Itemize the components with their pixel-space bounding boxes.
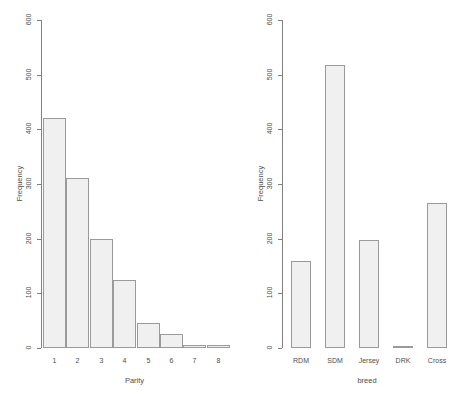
y-axis-line: [282, 20, 283, 348]
y-axis-tick: [278, 239, 282, 240]
x-axis-tick-label: SDM: [318, 357, 352, 364]
y-axis-line: [41, 20, 42, 348]
y-axis-tick-label: 300: [25, 173, 32, 195]
bar: [291, 261, 311, 348]
y-axis-title: Frequency: [256, 154, 265, 214]
x-axis-tick-label: 7: [183, 357, 206, 364]
bar: [66, 178, 89, 348]
x-axis-tick-label: 4: [113, 357, 136, 364]
x-axis-tick-label: Jersey: [352, 357, 386, 364]
y-axis-title: Frequency: [15, 154, 24, 214]
bar: [137, 323, 160, 348]
x-axis-tick-label: DRK: [386, 357, 420, 364]
bar: [359, 240, 379, 348]
y-axis-tick: [278, 348, 282, 349]
figure-canvas: 0100200300400500600Frequency12345678Pari…: [0, 0, 469, 394]
y-axis-tick: [37, 129, 41, 130]
chart-panel-breed: 0100200300400500600FrequencyRDMSDMJersey…: [240, 0, 469, 394]
y-axis-tick: [278, 184, 282, 185]
y-axis-tick-label: 400: [266, 118, 273, 140]
x-axis-tick-label: 3: [90, 357, 113, 364]
x-axis-tick-label: 1: [43, 357, 66, 364]
x-axis-title: Parity: [41, 376, 228, 385]
x-axis-tick-label: 8: [207, 357, 230, 364]
bar: [427, 203, 447, 348]
y-axis-tick-label: 200: [266, 227, 273, 249]
bar: [183, 345, 206, 348]
y-axis-tick-label: 0: [25, 337, 32, 359]
y-axis-tick: [37, 20, 41, 21]
y-axis-tick: [37, 184, 41, 185]
y-axis-tick: [278, 293, 282, 294]
y-axis-tick-label: 100: [266, 282, 273, 304]
bar: [160, 334, 183, 348]
bar: [113, 280, 136, 348]
y-axis-tick-label: 600: [25, 9, 32, 31]
y-axis-tick-label: 100: [25, 282, 32, 304]
y-axis-tick-label: 400: [25, 118, 32, 140]
y-axis-tick: [37, 348, 41, 349]
x-axis-tick-label: 2: [66, 357, 89, 364]
y-axis-tick-label: 300: [266, 173, 273, 195]
y-axis-tick: [278, 75, 282, 76]
bar: [43, 118, 66, 348]
bar: [393, 346, 413, 348]
y-axis-tick: [278, 20, 282, 21]
x-axis-tick-label: RDM: [284, 357, 318, 364]
y-axis-tick: [37, 239, 41, 240]
y-axis-tick-label: 0: [266, 337, 273, 359]
x-axis-tick-label: 6: [160, 357, 183, 364]
y-axis-tick: [37, 75, 41, 76]
y-axis-tick: [37, 293, 41, 294]
bar: [90, 239, 113, 348]
x-axis-tick-label: Cross: [420, 357, 454, 364]
y-axis-tick-label: 500: [266, 63, 273, 85]
y-axis-tick-label: 600: [266, 9, 273, 31]
y-axis-tick: [278, 129, 282, 130]
x-axis-title: breed: [282, 376, 452, 385]
bar: [207, 345, 230, 348]
y-axis-tick-label: 500: [25, 63, 32, 85]
x-axis-tick-label: 5: [137, 357, 160, 364]
y-axis-tick-label: 200: [25, 227, 32, 249]
chart-panel-parity: 0100200300400500600Frequency12345678Pari…: [0, 0, 240, 394]
bar: [325, 65, 345, 348]
